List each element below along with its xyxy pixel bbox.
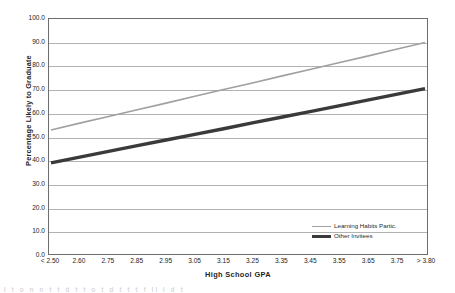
plot-area (48, 18, 428, 255)
x-tick-label: < 2.50 (41, 258, 60, 265)
x-tick-label: 2.95 (159, 258, 172, 265)
y-tick-label: 10.0 (20, 228, 45, 235)
y-tick-label: 80.0 (20, 62, 45, 69)
chart-legend: Learning Habits Partic.Other Invitees (312, 222, 430, 242)
x-tick-label: 3.45 (304, 258, 317, 265)
x-tick-label: 3.35 (275, 258, 288, 265)
legend-swatch-icon (312, 235, 331, 238)
y-tick-label: 40.0 (20, 157, 45, 164)
x-tick-label: 3.55 (333, 258, 346, 265)
page-footer-text: l t o n n t t d t t o t d t t t f ll l d… (0, 286, 455, 293)
x-tick-label: > 3.80 (417, 258, 436, 265)
legend-label: Other Invitees (334, 233, 373, 239)
x-tick-label: 3.25 (246, 258, 259, 265)
y-axis-tick-labels: 0.010.020.030.040.050.060.070.080.090.01… (20, 18, 45, 255)
y-tick-label: 90.0 (20, 38, 45, 45)
legend-swatch-icon (312, 226, 331, 227)
x-tick-label: 3.15 (217, 258, 230, 265)
series-line (51, 89, 425, 163)
y-tick-label: 20.0 (20, 204, 45, 211)
legend-item[interactable]: Learning Habits Partic. (312, 222, 430, 231)
x-tick-label: 2.60 (73, 258, 86, 265)
legend-item[interactable]: Other Invitees (312, 232, 430, 241)
x-tick-label: 2.85 (130, 258, 143, 265)
chart-figure: Percentage Likely to Graduate 0.010.020.… (0, 0, 455, 293)
x-tick-label: 2.75 (101, 258, 114, 265)
y-tick-label: 30.0 (20, 181, 45, 188)
x-axis-tick-labels: < 2.502.602.752.852.953.053.153.253.353.… (48, 258, 428, 268)
y-tick-label: 60.0 (20, 110, 45, 117)
x-tick-label: 3.05 (188, 258, 201, 265)
y-tick-label: 70.0 (20, 86, 45, 93)
x-axis-title: High School GPA (48, 270, 428, 279)
x-tick-label: 3.75 (391, 258, 404, 265)
series-line (51, 43, 425, 130)
legend-label: Learning Habits Partic. (334, 223, 397, 229)
y-tick-label: 100.0 (20, 15, 45, 22)
series-svg (49, 19, 427, 254)
x-tick-label: 3.65 (362, 258, 375, 265)
y-tick-label: 50.0 (20, 133, 45, 140)
